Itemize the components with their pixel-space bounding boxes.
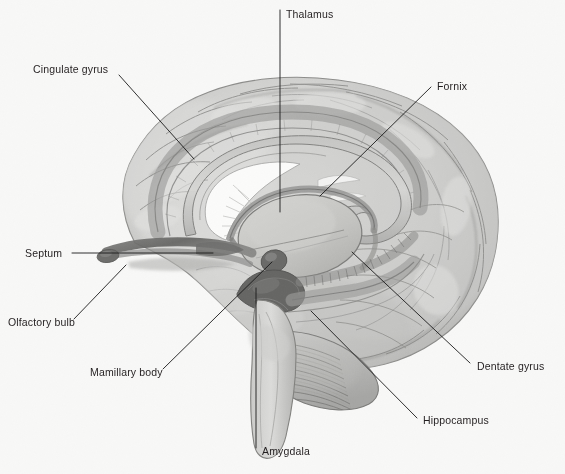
brain-illustration-svg: Thalamus Cingulate gyrus Fornix Septum O… <box>0 0 565 474</box>
label-dentate-gyrus: Dentate gyrus <box>477 360 544 372</box>
label-fornix: Fornix <box>437 80 468 92</box>
label-amygdala: Amygdala <box>262 445 310 457</box>
label-thalamus: Thalamus <box>286 8 333 20</box>
label-olfactory-bulb: Olfactory bulb <box>8 316 75 328</box>
brain-diagram-figure: Thalamus Cingulate gyrus Fornix Septum O… <box>0 0 565 474</box>
label-hippocampus: Hippocampus <box>423 414 489 426</box>
label-cingulate-gyrus: Cingulate gyrus <box>33 63 108 75</box>
label-septum: Septum <box>25 247 62 259</box>
label-mamillary-body: Mamillary body <box>90 366 163 378</box>
